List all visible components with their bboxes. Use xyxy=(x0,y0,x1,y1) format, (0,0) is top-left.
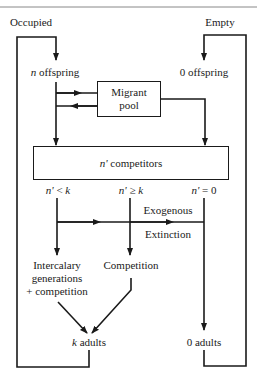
migrant-pool-line2: pool xyxy=(111,99,146,112)
condition-zero: n' = 0 xyxy=(191,184,216,197)
zero-adults-label: 0 adults xyxy=(187,336,222,349)
condition-less-than-k: n' < k xyxy=(46,184,70,197)
occupied-feedback-loop xyxy=(17,37,89,367)
n-offspring-label: n offspring xyxy=(31,66,79,79)
k: k xyxy=(138,184,143,196)
migrant-pool-to-empty-arrow xyxy=(161,99,205,145)
competitors-text: competitors xyxy=(108,157,163,170)
var: n' xyxy=(119,184,127,196)
empty-label: Empty xyxy=(205,16,234,29)
k-adults-label: k adults xyxy=(72,336,106,349)
competition-to-k-adults-arrow xyxy=(92,278,131,333)
migrant-pool-line1: Migrant xyxy=(111,86,146,99)
occupied-label: Occupied xyxy=(10,16,52,29)
k: k xyxy=(65,184,70,196)
migrant-pool-box: Migrant pool xyxy=(97,81,161,117)
k-adults-text: adults xyxy=(77,336,106,348)
op: ≥ xyxy=(127,184,139,196)
intercalary-label: Intercalary generations + competition xyxy=(26,259,88,298)
intercalary-line3: + competition xyxy=(26,285,88,298)
zero-offspring-label: 0 offspring xyxy=(180,66,228,79)
intercalary-to-k-adults-arrow xyxy=(58,302,87,333)
var: n' xyxy=(191,184,199,196)
var: n' xyxy=(46,184,54,196)
extinction-label: Extinction xyxy=(145,228,191,241)
intercalary-line1: Intercalary xyxy=(26,259,88,272)
empty-feedback-loop xyxy=(204,35,246,366)
competition-label: Competition xyxy=(104,259,159,272)
competitors-variable: n' xyxy=(100,157,108,170)
exogenous-label: Exogenous xyxy=(144,204,193,217)
competitors-box: n' competitors xyxy=(33,146,229,180)
condition-geq-k: n' ≥ k xyxy=(119,184,143,197)
n-offspring-text: offspring xyxy=(36,66,79,78)
op: = 0 xyxy=(199,184,216,196)
op: < xyxy=(54,184,66,196)
intercalary-line2: generations xyxy=(26,272,88,285)
